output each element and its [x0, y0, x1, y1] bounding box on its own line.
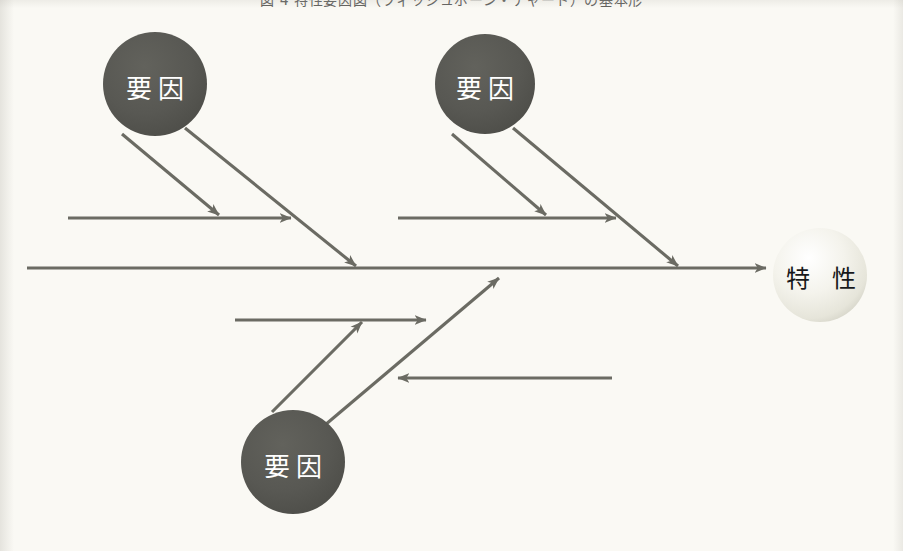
cause-circle-upper-left[interactable]: [103, 32, 207, 136]
fishbone-diagram-page: 図 4 特性要因図（フィッシュボーン・チャート）の基本形: [0, 0, 903, 551]
main-bone-lower-center: [325, 278, 499, 425]
sub-bone-upper-left-diagonal: [122, 134, 219, 215]
bone-lines-group: [27, 128, 766, 425]
cause-circle-lower-center[interactable]: [241, 410, 345, 514]
effect-circle[interactable]: [773, 228, 867, 322]
main-bone-upper-left: [185, 128, 356, 266]
main-bone-upper-right: [513, 128, 678, 266]
cause-circle-upper-right[interactable]: [435, 34, 535, 134]
node-circles-group: [103, 32, 867, 514]
fishbone-canvas: [0, 0, 903, 551]
sub-bone-lower-diagonal: [272, 322, 362, 412]
sub-bone-upper-right-diagonal: [452, 134, 546, 215]
